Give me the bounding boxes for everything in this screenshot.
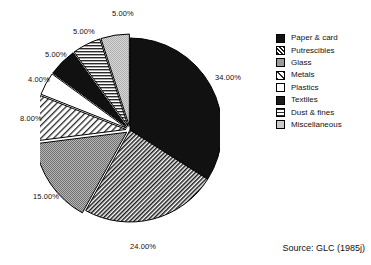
- pie-label-glass: 15.00%: [33, 193, 59, 201]
- legend-item-textiles[interactable]: Textiles: [276, 94, 371, 106]
- pie-label-dust-and-fines: 5.00%: [73, 28, 95, 36]
- source-note: Source: GLC (1985j): [282, 243, 365, 253]
- legend-label-glass: Glass: [291, 59, 311, 67]
- legend-item-dust-and-fines[interactable]: Dust & fines: [276, 106, 371, 118]
- legend-label-paper-and-card: Paper & card: [291, 34, 338, 42]
- pie-label-putrescibles: 24.00%: [130, 243, 156, 251]
- legend-item-glass[interactable]: Glass: [276, 57, 371, 69]
- legend-label-miscellaneous: Miscellaneous: [291, 121, 342, 129]
- legend: Paper & card Putrescibles Glass Metals P…: [276, 32, 371, 131]
- legend-item-putrescibles[interactable]: Putrescibles: [276, 44, 371, 56]
- legend-swatch-plastics: [276, 83, 285, 92]
- pie-label-textiles: 5.00%: [45, 51, 67, 59]
- legend-label-metals: Metals: [291, 71, 315, 79]
- legend-label-textiles: Textiles: [291, 96, 318, 104]
- pie-chart-figure: 5.00% 5.00% 5.00% 4.00% 8.00% 15.00% 24.…: [0, 0, 371, 265]
- legend-swatch-textiles: [276, 96, 285, 105]
- legend-item-miscellaneous[interactable]: Miscellaneous: [276, 119, 371, 131]
- legend-label-dust-and-fines: Dust & fines: [291, 109, 334, 117]
- pie-label-miscellaneous: 5.00%: [112, 10, 134, 18]
- legend-item-metals[interactable]: Metals: [276, 69, 371, 81]
- legend-item-plastics[interactable]: Plastics: [276, 82, 371, 94]
- pie-label-metals: 8.00%: [20, 115, 42, 123]
- pie-slices: [40, 34, 220, 222]
- legend-swatch-miscellaneous: [276, 120, 285, 129]
- pie-chart-area: [40, 30, 220, 230]
- legend-swatch-metals: [276, 71, 285, 80]
- pie-label-plastics: 4.00%: [28, 76, 50, 84]
- legend-swatch-paper-and-card: [276, 34, 285, 43]
- pie-svg: [40, 30, 220, 230]
- legend-swatch-putrescibles: [276, 46, 285, 55]
- pie-label-paper-and-card: 34.00%: [215, 74, 241, 82]
- legend-label-plastics: Plastics: [291, 84, 319, 92]
- legend-swatch-glass: [276, 58, 285, 67]
- legend-swatch-dust-and-fines: [276, 108, 285, 117]
- legend-item-paper-and-card[interactable]: Paper & card: [276, 32, 371, 44]
- legend-label-putrescibles: Putrescibles: [291, 47, 335, 55]
